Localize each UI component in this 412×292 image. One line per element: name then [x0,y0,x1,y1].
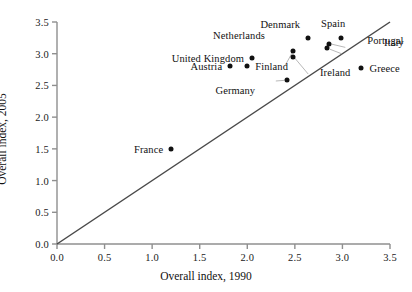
data-point-label: United Kingdom [172,53,244,64]
x-axis-title: Overall index, 1990 [160,270,252,282]
x-tick-label: 2.0 [240,252,254,263]
y-tick-label: 1.0 [21,175,49,186]
data-point-label: France [134,143,163,154]
x-tick-label: 1.0 [145,252,159,263]
data-point-marker [250,56,255,61]
data-point-label: Ireland [320,66,350,77]
y-tick-label: 2.0 [21,112,49,123]
data-point-marker [339,35,344,40]
data-point-label: Finland [255,61,288,72]
y-tick-label: 3.0 [21,48,49,59]
data-point-marker [359,65,364,70]
data-point-marker [325,46,330,51]
x-tick-label: 0.5 [98,252,112,263]
data-point-marker [327,41,332,46]
data-point-label: Denmark [260,19,300,30]
y-axis-title: Overall index, 2005 [0,93,8,185]
data-point-label: Germany [215,84,255,95]
data-point-label: Greece [369,62,399,73]
axes-and-series [0,0,412,292]
y-tick-label: 0.0 [21,239,49,250]
data-point-marker [169,146,174,151]
y-tick-label: 3.5 [21,17,49,28]
data-point-marker [306,36,311,41]
x-tick-label: 2.5 [288,252,302,263]
data-point-label: Spain [321,17,345,28]
y-tick-label: 2.5 [21,80,49,91]
x-tick-label: 0.0 [50,252,64,263]
data-point-marker [228,64,233,69]
data-point-label: Italy [384,36,404,47]
data-point-marker [245,64,250,69]
x-tick-label: 3.5 [383,252,397,263]
scatter-plot-figure: FranceAustriaUnited KingdomFinlandGerman… [0,0,412,292]
y-tick-label: 0.5 [21,207,49,218]
data-point-marker [285,77,290,82]
data-point-marker [290,49,295,54]
x-tick-label: 1.5 [193,252,207,263]
x-tick-label: 3.0 [336,252,350,263]
plot-area: FranceAustriaUnited KingdomFinlandGerman… [0,0,412,292]
data-point-label: Netherlands [213,30,265,41]
data-point-marker [290,54,295,59]
y-tick-label: 1.5 [21,143,49,154]
